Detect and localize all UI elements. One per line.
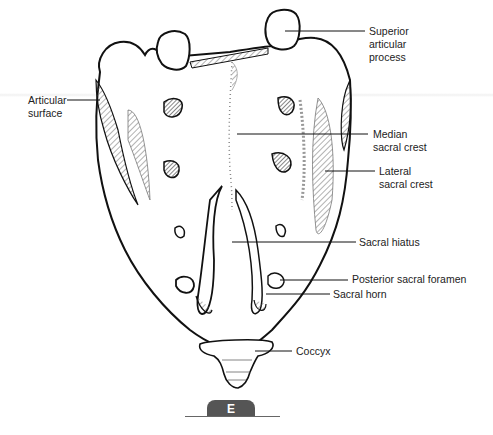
panel-baseline xyxy=(185,416,280,417)
label-lateral-sacral-crest: Lateral sacral crest xyxy=(379,165,433,191)
label-posterior-sacral-foramen: Posterior sacral foramen xyxy=(352,273,466,286)
diagram-stage: Superior articular process Articular sur… xyxy=(0,0,493,435)
coccyx xyxy=(200,340,273,388)
label-sacral-hiatus: Sacral hiatus xyxy=(359,236,420,249)
left-superior-process xyxy=(157,31,190,69)
right-superior-process xyxy=(265,10,299,50)
sacrum-illustration xyxy=(0,0,493,435)
label-articular-surface: Articular surface xyxy=(28,94,67,120)
foramen-4-left xyxy=(176,277,194,293)
label-coccyx: Coccyx xyxy=(296,345,330,358)
label-superior-articular-process: Superior articular process xyxy=(369,25,409,64)
panel-letter-tab: E xyxy=(207,400,255,417)
foramen-2-left xyxy=(164,161,179,178)
label-sacral-horn: Sacral horn xyxy=(333,288,387,301)
foramen-1-left xyxy=(164,99,182,117)
foramen-3-left xyxy=(175,226,185,237)
label-median-sacral-crest: Median sacral crest xyxy=(373,128,427,154)
